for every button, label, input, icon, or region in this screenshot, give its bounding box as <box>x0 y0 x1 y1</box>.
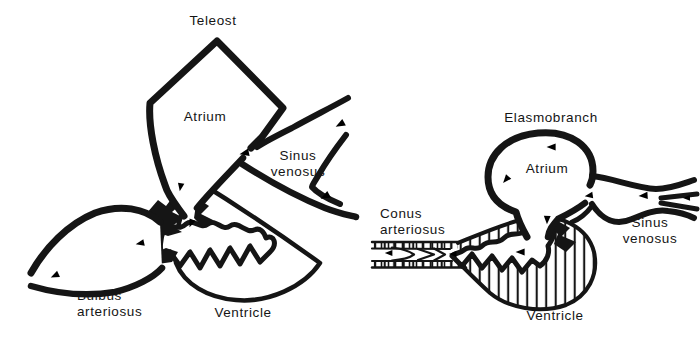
elasmobranch-sinus-venosus-label: Sinus venosus <box>623 215 677 247</box>
elasmobranch-conus-line1: Conus <box>380 206 445 222</box>
elasmobranch-sinus-upper-lip <box>661 194 697 198</box>
elasmobranch-sinus-upper-wall <box>592 176 694 189</box>
teleost-sinus-line1: Sinus <box>271 148 325 164</box>
flow-arrow <box>334 116 352 130</box>
teleost-sinus-venosus-label: Sinus venosus <box>271 148 325 180</box>
elasmobranch-conus-line2: arteriosus <box>380 222 445 238</box>
elasmobranch-ventricle-label: Ventricle <box>526 308 583 324</box>
figure-canvas: Teleost Atrium Sinus venosus Bulbus arte… <box>0 0 700 348</box>
elasmobranch-conus-arteriosus-label: Conus arteriosus <box>380 206 445 238</box>
teleost-title: Teleost <box>190 13 237 29</box>
elasmobranch-sinus-line1: Sinus <box>623 215 677 231</box>
teleost-atrium-label: Atrium <box>184 109 227 125</box>
elasmobranch-atrium-label: Atrium <box>526 161 569 177</box>
teleost-bulbus-arteriosus-label: Bulbus arteriosus <box>77 288 142 320</box>
elasmobranch-sinus-line2: venosus <box>623 231 677 247</box>
teleost-ventricle-label: Ventricle <box>214 305 271 321</box>
flow-arrow <box>638 191 654 199</box>
teleost-sinus-line2: venosus <box>271 164 325 180</box>
elasmobranch-title: Elasmobranch <box>504 110 598 126</box>
teleost-bulbus-line2: arteriosus <box>77 304 142 320</box>
conus-inner-top-line <box>372 249 450 250</box>
teleost-ventricle-channel <box>160 222 274 268</box>
teleost-bulbus-line1: Bulbus <box>77 288 142 304</box>
